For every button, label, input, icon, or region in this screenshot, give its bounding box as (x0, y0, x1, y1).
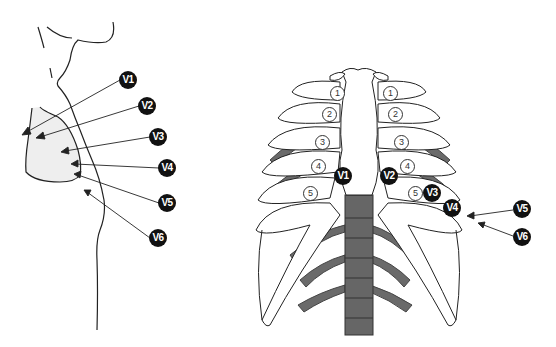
lead-v5-side: V5 (158, 194, 176, 212)
rib-number: 5 (408, 186, 423, 201)
lead-v3-front: V3 (423, 184, 441, 202)
lead-v1-side: V1 (119, 71, 137, 89)
rib-number: 4 (400, 159, 415, 174)
lead-v4-side: V4 (158, 159, 176, 177)
lead-v1-front: V1 (334, 167, 352, 185)
lead-v3-side: V3 (149, 128, 167, 146)
rib-number: 2 (388, 107, 403, 122)
lead-v5-front: V5 (513, 200, 531, 218)
lead-v4-front: V4 (443, 199, 461, 217)
rib-number: 3 (315, 135, 330, 150)
rib-number: 2 (322, 107, 337, 122)
rib-number: 1 (383, 86, 398, 101)
rib-number: 5 (303, 186, 318, 201)
front-view-arrows (467, 210, 513, 236)
spine (345, 195, 373, 335)
rib-number: 3 (394, 135, 409, 150)
rib-number: 1 (330, 86, 345, 101)
lead-v6-front: V6 (513, 228, 531, 246)
side-view-figure (26, 22, 114, 330)
lead-v2-front: V2 (380, 167, 398, 185)
diagram-canvas (0, 0, 556, 347)
lead-v6-side: V6 (149, 229, 167, 247)
rib-number: 4 (311, 159, 326, 174)
lead-v2-side: V2 (138, 97, 156, 115)
